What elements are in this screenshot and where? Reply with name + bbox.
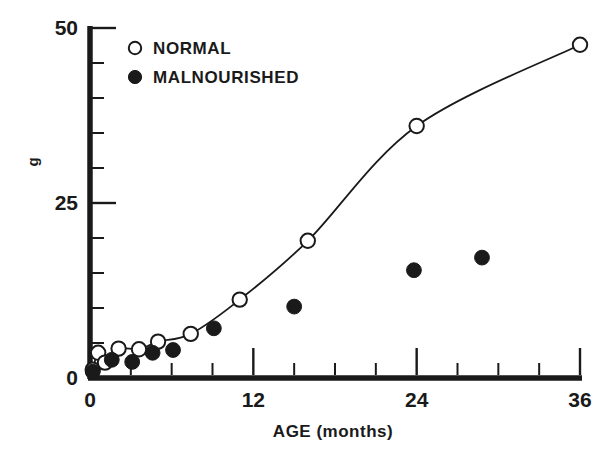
data-point-normal <box>184 327 198 341</box>
data-point-malnourished <box>125 355 140 370</box>
series-line-normal <box>93 45 580 370</box>
series-malnourished <box>85 250 489 379</box>
x-axis-title: AGE (months) <box>273 422 393 441</box>
data-point-normal <box>233 292 247 306</box>
legend-marker-filled-circle-icon <box>128 70 141 83</box>
data-point-malnourished <box>85 364 100 379</box>
axis-titles: AGE (months)g <box>24 157 393 441</box>
data-point-malnourished <box>145 345 160 360</box>
legend-marker-open-circle-icon <box>129 42 141 54</box>
data-point-normal <box>301 234 315 248</box>
legend-item-malnourished: MALNOURISHED <box>128 68 299 87</box>
y-axis-tick-label: 0 <box>66 366 78 389</box>
series-normal <box>86 38 588 377</box>
x-axis-tick-label: 12 <box>242 388 265 411</box>
legend-label: MALNOURISHED <box>153 68 299 87</box>
data-point-normal <box>573 38 587 52</box>
y-axis-tick-label: 50 <box>55 16 78 39</box>
legend-label: NORMAL <box>153 39 231 58</box>
y-axis-title: g <box>24 157 41 166</box>
data-series <box>85 38 587 380</box>
chart-figure: 025500122436 NORMALMALNOURISHED AGE (mon… <box>0 0 614 459</box>
data-point-malnourished <box>104 352 119 367</box>
data-point-normal <box>409 119 423 133</box>
data-point-malnourished <box>287 299 302 314</box>
data-point-malnourished <box>206 321 221 336</box>
data-point-malnourished <box>475 250 490 265</box>
data-point-malnourished <box>166 343 181 358</box>
x-axis-tick-label: 24 <box>405 388 429 411</box>
y-axis-tick-label: 25 <box>55 191 79 214</box>
x-axis-tick-label: 0 <box>84 388 96 411</box>
chart-legend: NORMALMALNOURISHED <box>128 39 299 87</box>
data-point-malnourished <box>407 263 422 278</box>
legend-item-normal: NORMAL <box>129 39 231 58</box>
x-axis-tick-label: 36 <box>568 388 591 411</box>
chart-canvas: 025500122436 NORMALMALNOURISHED AGE (mon… <box>0 0 614 459</box>
